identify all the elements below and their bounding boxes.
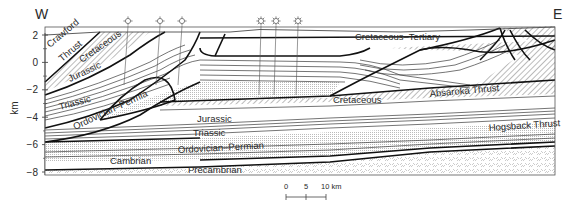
label-precambrian: Precambrian — [188, 164, 242, 175]
label-triassic-lower: Triassic — [193, 127, 226, 138]
axis-tick-label: −4 — [27, 112, 39, 123]
axis-tick-label: −8 — [27, 167, 39, 178]
scale-bar: 0 5 10 km — [284, 182, 341, 200]
label-cambrian: Cambrian — [110, 155, 151, 166]
depth-axis: 20−2−4−6−8 km — [9, 30, 48, 178]
label-cretaceous-lower: Cretaceous — [333, 94, 382, 105]
label-jurassic-lower: Jurassic — [197, 113, 232, 124]
axis-tick-label: 0 — [32, 57, 38, 68]
axis-tick-label: −2 — [27, 84, 39, 95]
scale-label-5: 5 — [304, 182, 308, 191]
scale-label-0: 0 — [284, 182, 288, 191]
geologic-cross-section: W E 20−2−4−6−8 km — [0, 0, 581, 210]
direction-east-label: E — [553, 6, 562, 22]
axis-label-km: km — [9, 101, 20, 114]
label-cretaceous-tertiary: Cretaceous–Tertiary — [355, 31, 440, 42]
scale-label-10km: 10 km — [321, 182, 341, 191]
direction-west-label: W — [35, 6, 49, 22]
axis-tick-label: −6 — [27, 139, 39, 150]
axis-tick-label: 2 — [32, 30, 38, 41]
